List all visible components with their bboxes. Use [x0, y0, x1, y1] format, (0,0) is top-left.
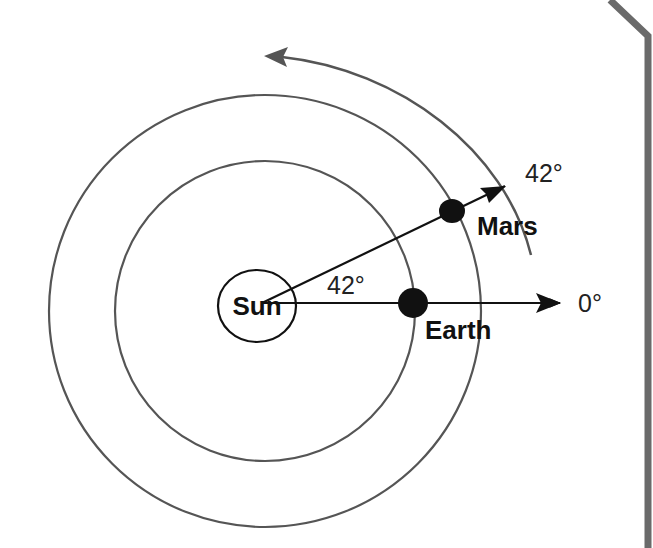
mars-direction-label: 42° — [525, 159, 563, 187]
angle-label: 42° — [327, 271, 365, 299]
earth-direction-label: 0° — [578, 289, 602, 317]
mars-dot — [439, 199, 465, 223]
earth-dot — [398, 288, 428, 318]
sun-label: Sun — [232, 291, 281, 321]
orbit-diagram: Sun 42° Earth Mars 42° 0° — [0, 0, 653, 548]
page-border — [610, 0, 648, 548]
earth-label: Earth — [425, 315, 491, 345]
mars-label: Mars — [477, 211, 538, 241]
mars-arrowhead-icon — [480, 186, 506, 203]
mars-direction-line — [262, 186, 505, 303]
